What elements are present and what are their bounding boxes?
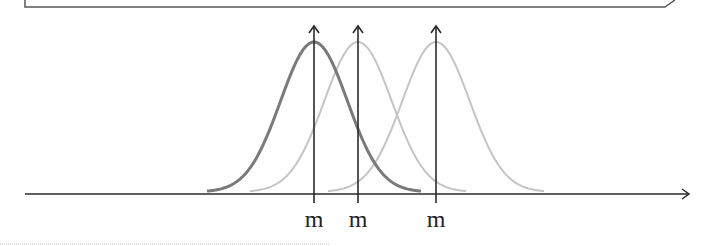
mean-label-2: m [349, 207, 368, 231]
mean-label-1: m [305, 207, 324, 231]
mean-label-3: m [427, 207, 446, 231]
top-box-outline [25, 0, 675, 7]
